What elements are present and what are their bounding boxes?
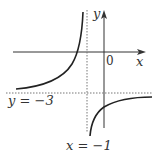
vertical-asymptote-label: x = −1 [66, 138, 112, 153]
y-axis-label: y [92, 6, 101, 21]
x-axis-label: x [136, 54, 144, 69]
horizontal-asymptote-label: y = −3 [7, 93, 54, 108]
origin-label: 0 [106, 54, 114, 68]
curve-right-branch [90, 97, 152, 136]
graph-canvas: y 0 x y = −3 x = −1 [0, 0, 158, 163]
curve-left-branch [16, 12, 83, 89]
